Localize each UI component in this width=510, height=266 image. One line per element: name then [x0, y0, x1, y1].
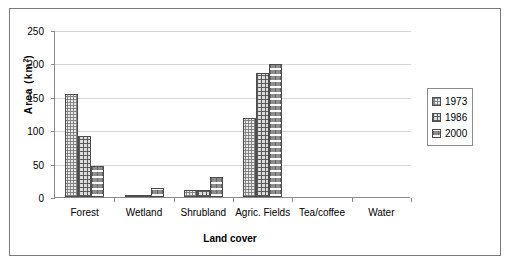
legend-swatch-icon: [432, 97, 441, 106]
x-axis-category-label: Forest: [70, 207, 98, 218]
y-axis-tick-label: 200: [27, 59, 44, 70]
y-axis-tick-mark: 50: [51, 165, 55, 166]
x-axis-tick-mark: [114, 198, 115, 202]
x-axis-category-label: Water: [368, 207, 394, 218]
bar-1986-forest: [78, 136, 91, 197]
y-axis-tick-label: 50: [33, 159, 44, 170]
x-axis-tick-mark: [352, 198, 353, 202]
legend-swatch-icon: [432, 113, 441, 122]
y-axis-tick-label: 0: [38, 193, 44, 204]
legend-item-1973[interactable]: 1973: [432, 93, 467, 109]
bar-1973-wetland: [125, 195, 138, 197]
bar-chart-figure: Area (km2) Land cover 050100150200250For…: [0, 0, 510, 266]
gridline: [55, 165, 411, 166]
x-axis-category-label: Wetland: [126, 207, 163, 218]
bar-2000-wetland: [151, 188, 164, 197]
gridline: [55, 131, 411, 132]
y-axis-tick-mark: 200: [51, 64, 55, 65]
x-axis-tick-mark: [411, 198, 412, 202]
y-axis-tick-mark: 100: [51, 131, 55, 132]
gridline: [55, 31, 411, 32]
bar-1986-wetland: [138, 195, 151, 197]
y-axis-tick-label: 100: [27, 126, 44, 137]
bar-2000-agric-fields: [269, 64, 282, 197]
x-axis-category-label: Agric. Fields: [235, 207, 290, 218]
bar-2000-forest: [91, 166, 104, 197]
y-axis-title-base: Area (km: [23, 63, 34, 115]
bar-1973-forest: [65, 94, 78, 197]
y-axis-tick-label: 250: [27, 26, 44, 37]
bar-1986-shrubland: [197, 190, 210, 197]
bar-1973-agric-fields: [243, 118, 256, 197]
chart-legend: 197319862000: [427, 88, 473, 146]
bar-2000-shrubland: [210, 177, 223, 197]
bar-1973-shrubland: [184, 190, 197, 197]
x-axis-category-label: Tea/coffee: [299, 207, 345, 218]
x-axis-category-label: Shrubland: [181, 207, 227, 218]
y-axis-tick-label: 150: [27, 92, 44, 103]
gridline: [55, 98, 411, 99]
x-axis-tick-mark: [233, 198, 234, 202]
gridline: [55, 64, 411, 65]
x-axis-tick-mark: [174, 198, 175, 202]
legend-label: 2000: [445, 128, 467, 139]
legend-label: 1973: [445, 96, 467, 107]
y-axis-tick-mark: 150: [51, 98, 55, 99]
x-axis-title: Land cover: [0, 233, 460, 244]
legend-label: 1986: [445, 112, 467, 123]
legend-item-1986[interactable]: 1986: [432, 109, 467, 125]
plot-area: 050100150200250ForestWetlandShrublandAgr…: [54, 31, 410, 198]
x-axis-tick-mark: [292, 198, 293, 202]
legend-item-2000[interactable]: 2000: [432, 125, 467, 141]
legend-swatch-icon: [432, 129, 441, 138]
y-axis-tick-mark: 250: [51, 31, 55, 32]
bar-1986-agric-fields: [256, 73, 269, 197]
y-axis-tick-mark: 0: [51, 198, 55, 199]
